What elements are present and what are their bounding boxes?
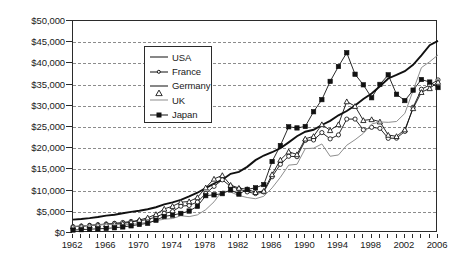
data-point-marker — [112, 226, 116, 230]
x-axis-tick — [255, 234, 256, 238]
data-point-marker — [154, 218, 158, 222]
data-point-marker — [270, 159, 274, 163]
legend-item-label: USA — [172, 52, 191, 63]
data-point-marker — [336, 64, 340, 68]
x-axis-tick — [205, 234, 206, 238]
data-point-marker — [320, 131, 324, 135]
x-axis-tick — [80, 234, 81, 238]
x-axis-tick — [138, 234, 139, 238]
data-point-marker — [129, 224, 133, 228]
x-axis-tick-label: 1970 — [128, 239, 149, 250]
y-axis-tick-label: $30,000 — [31, 99, 65, 110]
x-axis-tick — [89, 234, 90, 238]
x-axis-tick — [304, 234, 305, 238]
x-axis-tick — [420, 234, 421, 238]
data-point-marker — [195, 200, 199, 204]
x-axis-tick — [72, 234, 73, 238]
data-point-marker — [344, 99, 349, 104]
series-france — [71, 78, 440, 229]
x-axis-tick — [213, 234, 214, 238]
x-axis-tick-label: 2002 — [393, 239, 414, 250]
x-axis-tick — [271, 234, 272, 238]
x-axis-tick — [155, 234, 156, 238]
x-axis-tick-label: 1998 — [360, 239, 381, 250]
x-axis-tick — [329, 234, 330, 238]
x-axis-tick — [296, 234, 297, 238]
x-axis-tick — [371, 234, 372, 238]
data-point-marker — [162, 214, 166, 218]
data-point-marker — [286, 149, 291, 154]
x-axis-tick — [387, 234, 388, 238]
legend-item-france: France — [145, 64, 211, 78]
legend-item-label: UK — [172, 95, 185, 106]
data-point-marker — [79, 227, 83, 231]
data-point-marker — [220, 173, 225, 178]
solid-square-icon — [157, 112, 162, 117]
data-point-marker — [328, 137, 332, 141]
x-axis-tick — [437, 234, 438, 238]
data-point-marker — [195, 204, 199, 208]
data-point-marker — [311, 110, 315, 114]
data-point-marker — [295, 126, 299, 130]
x-axis-tick-label: 1994 — [327, 239, 348, 250]
data-point-marker — [204, 193, 208, 197]
data-point-marker — [303, 124, 307, 128]
x-axis-tick — [188, 234, 189, 238]
x-axis-tick-label: 1982 — [228, 239, 249, 250]
x-axis-tick — [429, 234, 430, 238]
x-axis-tick — [172, 234, 173, 238]
x-axis-tick-label: 1962 — [62, 239, 83, 250]
legend-swatch-icon — [149, 109, 169, 121]
data-point-marker — [336, 133, 340, 137]
x-axis-tick — [97, 234, 98, 238]
data-point-marker — [87, 227, 91, 231]
x-axis-tick — [362, 234, 363, 238]
legend-item-japan: Japan — [145, 108, 211, 122]
data-point-marker — [286, 125, 290, 129]
x-axis-tick — [337, 234, 338, 238]
y-axis-tick-label: $15,000 — [31, 163, 65, 174]
data-point-marker — [287, 154, 291, 158]
data-point-marker — [394, 92, 398, 96]
y-axis-tick-label: $10,000 — [31, 184, 65, 195]
chart-legend: USAFranceGermanyUKJapan — [144, 46, 212, 123]
x-axis-tick — [105, 234, 106, 238]
data-point-marker — [403, 98, 407, 102]
data-point-marker — [369, 96, 373, 100]
plot-area — [72, 20, 437, 232]
data-point-marker — [428, 80, 432, 84]
x-axis-tick — [230, 234, 231, 238]
data-point-marker — [353, 72, 357, 76]
data-point-marker — [153, 212, 158, 217]
data-point-marker — [121, 225, 125, 229]
x-axis-tick — [379, 234, 380, 238]
legend-swatch-icon — [149, 94, 169, 106]
y-axis-tick-label: $5,000 — [37, 205, 65, 216]
legend-item-label: Germany — [172, 80, 210, 91]
y-axis-tick-label: $25,000 — [31, 121, 65, 132]
legend-item-label: Japan — [172, 109, 197, 120]
data-point-marker — [336, 122, 341, 127]
legend-item-germany: Germany — [145, 79, 211, 93]
legend-swatch-icon — [149, 80, 169, 92]
x-axis-tick — [130, 234, 131, 238]
data-point-marker — [262, 182, 266, 186]
x-axis-tick — [354, 234, 355, 238]
x-axis-tick-label: 1966 — [95, 239, 116, 250]
open-triangle-icon — [155, 82, 163, 89]
data-point-marker — [419, 77, 423, 81]
y-axis: $0$5,000$10,000$15,000$20,000$25,000$30,… — [0, 0, 72, 263]
series-line — [73, 82, 438, 227]
x-axis-tick — [396, 234, 397, 238]
data-point-marker — [402, 127, 407, 132]
data-point-marker — [212, 193, 216, 197]
data-point-marker — [187, 209, 191, 213]
x-axis-tick — [180, 234, 181, 238]
data-point-marker — [96, 227, 100, 231]
data-point-marker — [220, 178, 224, 182]
x-axis-tick-label: 1978 — [194, 239, 215, 250]
series-japan — [71, 51, 440, 233]
legend-line-icon — [150, 57, 168, 58]
data-point-marker — [104, 226, 108, 230]
legend-item-usa: USA — [145, 50, 211, 64]
